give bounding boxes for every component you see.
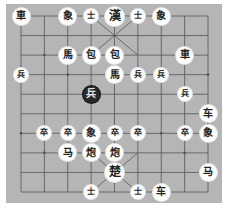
piece[interactable]: 包	[83, 47, 100, 64]
piece[interactable]: 卒	[61, 126, 75, 140]
piece[interactable]: 兵	[131, 68, 145, 82]
piece[interactable]: 马	[200, 164, 217, 181]
piece[interactable]: 兵	[14, 68, 28, 82]
piece[interactable]: 兵	[178, 87, 192, 101]
piece[interactable]: 象	[83, 125, 100, 142]
piece[interactable]: 漢	[105, 7, 124, 26]
piece[interactable]: 包	[106, 47, 123, 64]
piece[interactable]: 车	[200, 105, 217, 122]
piece[interactable]: 車	[176, 47, 193, 64]
piece[interactable]: 卒	[108, 126, 122, 140]
piece[interactable]: 炮	[83, 144, 100, 161]
piece[interactable]: 车	[153, 184, 170, 201]
piece[interactable]: 象	[200, 125, 217, 142]
piece[interactable]: 兵	[83, 86, 100, 103]
piece[interactable]: 象	[153, 8, 170, 25]
piece[interactable]: 楚	[105, 163, 124, 182]
piece[interactable]: 卒	[178, 126, 192, 140]
piece[interactable]: 士	[131, 185, 145, 199]
piece[interactable]: 馬	[59, 47, 76, 64]
piece[interactable]: 兵	[154, 68, 168, 82]
piece[interactable]: 象	[59, 8, 76, 25]
piece[interactable]: 車	[13, 8, 30, 25]
piece[interactable]: 士	[131, 9, 145, 23]
